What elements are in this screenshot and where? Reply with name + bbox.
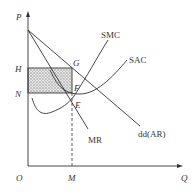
y-axis-label: P <box>15 12 22 22</box>
profit-area <box>28 68 72 93</box>
point-f-label: F <box>73 83 80 93</box>
demand-label: dd(AR) <box>138 129 166 139</box>
point-e-label: E <box>74 100 81 110</box>
smc-label: SMC <box>101 30 120 40</box>
point-g-label: G <box>73 58 80 68</box>
x-axis-arrow-icon <box>177 164 183 168</box>
origin-label: O <box>16 173 23 183</box>
monopoly-diagram: P Q O H N M G F E SMC SAC MR dd(AR) <box>0 0 194 194</box>
quantity-label-m: M <box>67 173 76 183</box>
y-axis-arrow-icon <box>26 11 30 17</box>
price-label-h: H <box>14 64 22 74</box>
mr-label: MR <box>88 135 102 145</box>
sac-label: SAC <box>129 55 147 65</box>
x-axis-label: Q <box>181 173 188 183</box>
price-label-n: N <box>14 89 22 99</box>
